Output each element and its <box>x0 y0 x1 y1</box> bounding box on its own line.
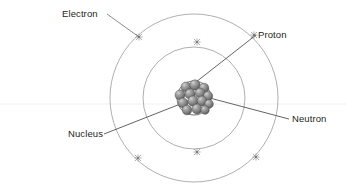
nucleon-sphere <box>192 104 202 114</box>
electron-marker <box>252 153 259 160</box>
label-neutron: Neutron <box>292 113 327 124</box>
electron-dot <box>196 41 198 43</box>
nucleon-sphere <box>201 106 210 115</box>
electron-dot <box>137 157 139 159</box>
electron-dot <box>255 156 257 158</box>
label-electron: Electron <box>62 8 98 19</box>
label-nucleus: Nucleus <box>68 128 103 139</box>
electron-marker <box>134 154 141 161</box>
electron-marker <box>193 148 200 155</box>
atom-diagram: Electron Proton Nucleus Neutron <box>0 0 346 185</box>
proton-leader-line <box>196 35 256 82</box>
nucleon-sphere <box>182 105 192 115</box>
electron-marker <box>193 38 200 45</box>
labels-group: Electron Proton Nucleus Neutron <box>62 8 327 139</box>
atom-diagram-canvas: Electron Proton Nucleus Neutron <box>0 0 346 185</box>
nucleus-leader-line <box>104 101 188 134</box>
electron-dot <box>196 151 198 153</box>
nucleus-cluster <box>175 80 213 115</box>
electron-marker <box>250 31 257 38</box>
nucleon-spheres-group <box>175 80 213 115</box>
electron-leader-line <box>107 14 139 37</box>
label-proton: Proton <box>258 29 287 40</box>
neutron-leader-line <box>206 97 289 119</box>
